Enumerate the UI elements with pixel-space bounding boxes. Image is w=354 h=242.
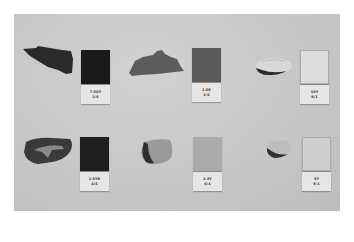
chip-label: 2.5R 3/6 [192,82,221,103]
munsell-chip-2: 2.5R 3/6 [192,48,221,102]
sherd-6 [264,138,294,160]
chip-swatch [80,137,109,171]
sherd-5 [140,138,174,166]
chip-value-chroma: 9/1 [313,182,319,187]
chip-value-chroma: 3/6 [203,93,209,98]
munsell-chip-1: 7.5GY 2/6 [81,50,110,104]
chip-swatch [81,50,110,84]
munsell-chip-4: 2.5YR 4/6 [80,137,109,191]
chip-swatch [302,137,331,171]
munsell-chip-6: 5Y 9/1 [302,137,331,191]
sherd-1 [22,45,74,77]
chip-value-chroma: 9/1 [311,95,317,100]
munsell-chip-3: 10Y 9/1 [300,50,329,104]
chip-label: 2.5YR 4/6 [80,171,109,192]
grey-display-board [14,14,340,211]
sherd-4 [22,136,74,166]
sherd-2 [127,49,185,77]
chip-swatch [300,50,329,84]
chip-value-chroma: 4/6 [91,182,97,187]
sherd-3 [252,56,294,78]
chip-swatch [193,137,222,171]
chip-label: 10Y 9/1 [300,84,329,105]
chip-value-chroma: 2/6 [92,95,98,100]
chip-label: 5Y 9/1 [302,171,331,192]
chip-value-chroma: 6/4 [204,182,210,187]
chip-label: 7.5GY 2/6 [81,84,110,105]
munsell-chip-5: 2.5Y 6/4 [193,137,222,191]
chip-swatch [192,48,221,82]
chip-label: 2.5Y 6/4 [193,171,222,192]
